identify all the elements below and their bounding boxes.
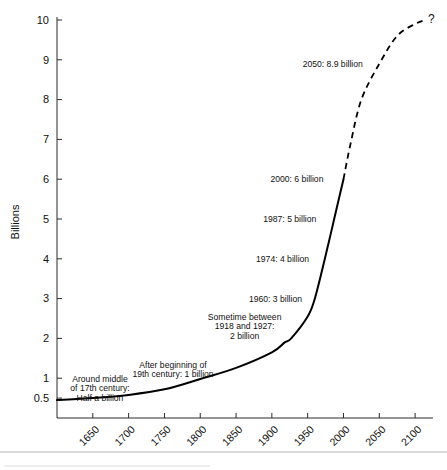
x-tick-label-2100: 2100 [399, 423, 424, 448]
x-tick-label-1800: 1800 [184, 423, 209, 448]
annotation-line: Sometime between [208, 312, 282, 322]
annotation-line: After beginning of [139, 360, 207, 370]
y-tick-label-4: 4 [43, 253, 49, 265]
annotation-line: 1987: 5 billion [263, 214, 316, 224]
annotation-line: 1974: 4 billion [256, 254, 309, 264]
y-tick-label-3: 3 [43, 292, 49, 304]
annotation-three-billion: 1960: 3 billion [249, 294, 302, 304]
y-tick-label-1: 1 [43, 372, 49, 384]
x-tick-label-1750: 1750 [148, 423, 173, 448]
x-tick-label-1950: 1950 [291, 423, 316, 448]
annotation-line: ? [428, 12, 435, 26]
y-tick-label-7: 7 [43, 133, 49, 145]
x-tick-label-1650: 1650 [76, 423, 101, 448]
annotation-line: Around middle [72, 374, 128, 384]
annotation-one-billion: After beginning of19th century: 1 billio… [132, 360, 213, 380]
population-growth-figure: 0.512345678910 1650170017501800185019001… [0, 0, 447, 470]
y-tick-label-0-5: 0.5 [34, 392, 49, 404]
annotation-question-mark: ? [428, 12, 435, 26]
annotation-four-billion: 1974: 4 billion [256, 254, 309, 264]
annotation-line: 19th century: 1 billion [132, 369, 213, 379]
y-axis-ticks: 0.512345678910 [34, 14, 62, 404]
annotation-line: 1960: 3 billion [249, 294, 302, 304]
annotation-line: 1918 and 1927: [215, 321, 275, 331]
annotation-line: 2 billion [230, 331, 259, 341]
annotation-five-billion: 1987: 5 billion [263, 214, 316, 224]
annotation-six-billion: 2000: 6 billion [270, 174, 323, 184]
x-tick-label-1850: 1850 [219, 423, 244, 448]
y-tick-label-5: 5 [43, 213, 49, 225]
annotation-line: Half a billion [77, 393, 124, 403]
annotation-nine-billion: 2050: 8.9 billion [303, 59, 363, 69]
y-tick-label-6: 6 [43, 173, 49, 185]
axes-group [57, 17, 433, 418]
annotation-line: 2000: 6 billion [270, 174, 323, 184]
y-tick-label-8: 8 [43, 93, 49, 105]
y-tick-label-9: 9 [43, 54, 49, 66]
annotation-half-billion: Around middleof 17th century:Half a bill… [70, 374, 129, 403]
annotation-line: of 17th century: [70, 383, 129, 393]
x-tick-label-2050: 2050 [363, 423, 388, 448]
annotation-line: 2050: 8.9 billion [303, 59, 363, 69]
y-tick-label-2: 2 [43, 332, 49, 344]
x-tick-label-2000: 2000 [327, 423, 352, 448]
annotation-two-billion: Sometime between1918 and 1927:2 billion [208, 312, 282, 341]
x-tick-label-1900: 1900 [255, 423, 280, 448]
population-curve-projected [343, 20, 425, 179]
chart-annotations: Around middleof 17th century:Half a bill… [70, 12, 435, 403]
world-population-chart: 0.512345678910 1650170017501800185019001… [0, 0, 447, 470]
y-axis-title: Billions [9, 204, 21, 239]
y-tick-label-10: 10 [37, 14, 49, 26]
x-tick-label-1700: 1700 [112, 423, 137, 448]
